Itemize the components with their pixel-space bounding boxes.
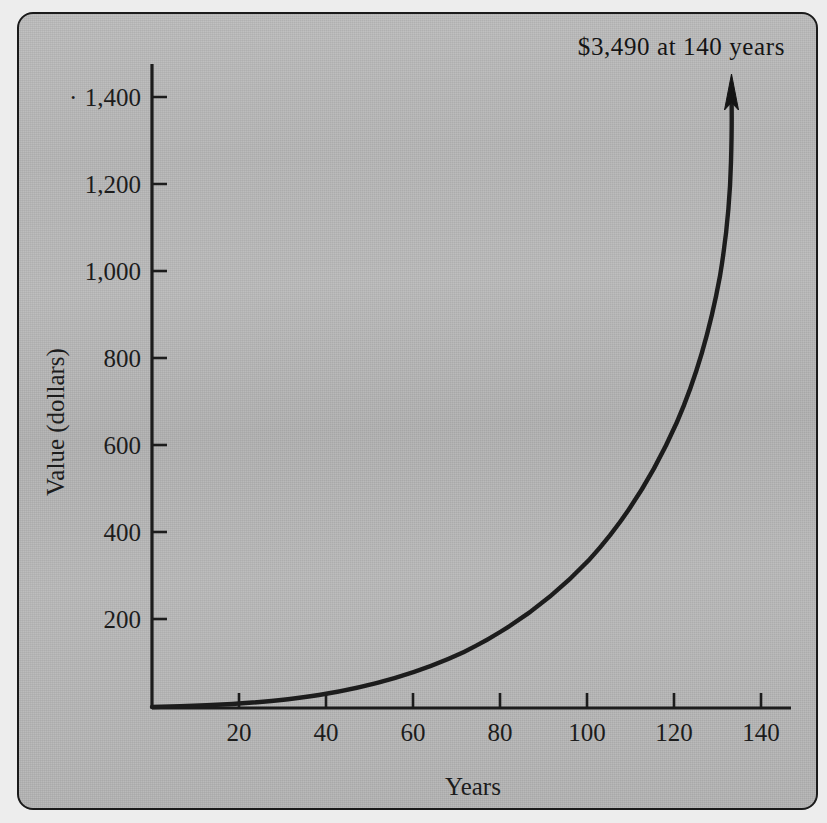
x-tick-label-120: 120: [655, 719, 693, 746]
x-tick-label-60: 60: [401, 719, 426, 746]
y-tick-label-1000: 1,000: [85, 258, 141, 285]
y-axis-ticks: [152, 97, 167, 619]
x-tick-label-140: 140: [742, 719, 780, 746]
y-tick-label-600: 600: [104, 432, 142, 459]
x-tick-label-80: 80: [488, 719, 513, 746]
x-tick-label-20: 20: [227, 719, 252, 746]
x-tick-label-40: 40: [314, 719, 339, 746]
x-axis-title: Years: [445, 773, 501, 800]
x-axis-tick-labels: 20 40 60 80 100 120 140: [227, 719, 780, 746]
y-tick-label-1400: 1,400: [85, 84, 141, 111]
y-tick-label-400: 400: [104, 519, 142, 546]
y-axis-title: Value (dollars): [42, 348, 70, 496]
y-tick-label-200: 200: [104, 606, 142, 633]
investment-value-curve: [152, 102, 732, 707]
y-axis-tick-labels: 1,400 1,200 1,000 800 600 400 200: [85, 84, 141, 633]
figure-root: 1,400 1,200 1,000 800 600 400 200 ·: [0, 0, 827, 823]
endpoint-callout-label: $3,490 at 140 years: [578, 33, 785, 60]
stray-dot-mark: ·: [69, 84, 77, 111]
x-tick-label-100: 100: [568, 719, 606, 746]
figure-frame: 1,400 1,200 1,000 800 600 400 200 ·: [17, 12, 818, 810]
y-tick-label-1200: 1,200: [85, 171, 141, 198]
axis-lines: [152, 64, 791, 708]
y-tick-label-800: 800: [104, 345, 142, 372]
exponential-growth-chart: 1,400 1,200 1,000 800 600 400 200 ·: [19, 14, 818, 810]
